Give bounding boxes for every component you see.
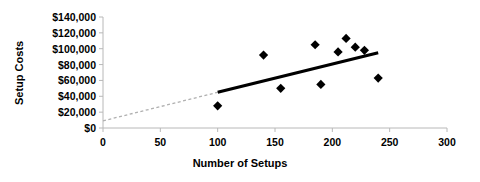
x-axis-tick-label: 50 bbox=[140, 137, 180, 148]
data-point-marker bbox=[333, 47, 342, 56]
y-axis-tick-label: $0 bbox=[28, 123, 96, 134]
data-point-marker bbox=[276, 84, 285, 93]
x-axis-tick-label: 250 bbox=[370, 137, 410, 148]
axis-lines bbox=[103, 17, 447, 128]
data-point-marker bbox=[213, 101, 222, 110]
y-axis-ticks bbox=[99, 17, 103, 128]
trendline bbox=[218, 53, 379, 93]
y-axis-tick-label: $20,000 bbox=[28, 107, 96, 118]
y-axis-tick-label: $60,000 bbox=[28, 75, 96, 86]
data-point-marker bbox=[259, 50, 268, 59]
y-axis-title: Setup Costs bbox=[14, 41, 25, 105]
x-axis-ticks bbox=[103, 128, 447, 132]
x-axis-title: Number of Setups bbox=[0, 158, 480, 169]
x-axis-tick-label: 200 bbox=[312, 137, 352, 148]
data-point-marker bbox=[341, 34, 350, 43]
scatter-chart: $0$20,000$40,000$60,000$80,000$100,000$1… bbox=[0, 0, 480, 182]
trendline-extension bbox=[103, 92, 218, 121]
data-point-marker bbox=[311, 40, 320, 49]
x-axis-tick-label: 150 bbox=[255, 137, 295, 148]
y-axis-tick-label: $120,000 bbox=[28, 28, 96, 39]
y-axis-tick-label: $100,000 bbox=[28, 44, 96, 55]
x-axis-tick-label: 300 bbox=[427, 137, 467, 148]
y-axis-tick-label: $140,000 bbox=[28, 12, 96, 23]
trendline-segment bbox=[218, 53, 379, 93]
data-point-marker bbox=[374, 73, 383, 82]
trendline-extension-segment bbox=[103, 92, 218, 121]
data-point-marker bbox=[351, 43, 360, 52]
data-point-marker bbox=[360, 46, 369, 55]
data-point-marker bbox=[316, 80, 325, 89]
x-axis-tick-label: 0 bbox=[83, 137, 123, 148]
y-axis-tick-label: $40,000 bbox=[28, 91, 96, 102]
y-axis-tick-label: $80,000 bbox=[28, 60, 96, 71]
x-axis-tick-label: 100 bbox=[198, 137, 238, 148]
